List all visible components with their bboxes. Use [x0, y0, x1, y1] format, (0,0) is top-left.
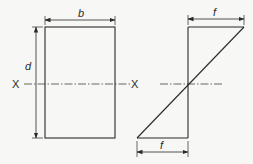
depth-label: d: [25, 60, 32, 72]
bottom-stress-dimension: f: [137, 139, 188, 157]
stress-distribution: [137, 27, 244, 138]
axis-left-label: X: [12, 78, 20, 90]
width-dimension: b: [45, 7, 115, 25]
neutral-axis-xx: X X: [12, 78, 139, 90]
top-stress-label: f: [213, 6, 217, 18]
cross-section-rectangle: [45, 27, 115, 138]
axis-right-label: X: [131, 78, 139, 90]
top-stress-dimension: f: [188, 6, 244, 25]
beam-section-stress-diagram: b d X X f f: [0, 0, 253, 164]
width-label: b: [78, 7, 84, 19]
depth-dimension: d: [25, 27, 43, 138]
bottom-stress-label: f: [160, 139, 164, 151]
